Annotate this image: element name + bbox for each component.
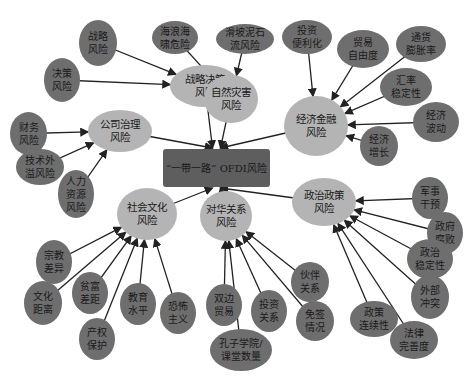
leaf-node: 政治 稳定性 <box>407 239 453 279</box>
category-node-china: 对华关系 风险 <box>200 191 252 241</box>
leaf-node: 滑坡泥石 流风险 <box>216 24 274 54</box>
leaf-node: 人力 资源 风险 <box>58 170 94 218</box>
category-node-social: 社会文化 风险 <box>117 188 177 240</box>
leaf-node: 通货 膨胀率 <box>396 26 446 62</box>
leaf-node: 海浪海 啸危险 <box>152 21 198 54</box>
leaf-node: 投资 关系 <box>251 290 287 332</box>
leaf-node: 贸易 自由度 <box>337 30 389 68</box>
leaf-node: 经济 增长 <box>360 126 398 166</box>
leaf-node: 教育 水平 <box>120 283 156 325</box>
leaf-node: 恐怖 主义 <box>160 292 196 334</box>
leaf-node: 免签 情况 <box>296 301 334 341</box>
category-node-politic: 政治政策 风险 <box>292 178 356 226</box>
leaf-node: 产权 保护 <box>79 318 115 360</box>
leaf-node: 孔子学院/ 课堂数量 <box>210 329 272 371</box>
category-node-econ: 经济金融 风险 <box>284 96 348 156</box>
leaf-node: 战略 风险 <box>79 20 117 66</box>
category-node-nature: 自然灾害 风险 <box>204 75 258 123</box>
leaf-node: 技术外 溢风险 <box>16 149 64 185</box>
leaf-node: 宗教 差异 <box>36 240 72 284</box>
center-node-ofdi-risk: “一带一路” OFDI风险 <box>163 149 270 187</box>
leaf-node: 外部 冲突 <box>411 275 449 319</box>
ofdi-risk-diagram: “一带一路” OFDI风险 战略决策 风险自然灾害 风险经济金融 风险公司治理 … <box>0 0 476 378</box>
leaf-node: 双边 贸易 <box>206 284 242 326</box>
leaf-node: 决策 风险 <box>44 58 80 102</box>
leaf-node: 政策 连续性 <box>350 301 398 337</box>
leaf-node: 文化 距离 <box>24 281 62 325</box>
leaf-node: 伙伴 关系 <box>291 262 329 302</box>
leaf-node: 投资 便利化 <box>282 20 332 54</box>
leaf-node: 汇率 稳定性 <box>380 68 432 106</box>
leaf-node: 贫富 差距 <box>72 272 108 314</box>
leaf-node: 经济 波动 <box>413 102 459 142</box>
category-node-corp: 公司治理 风险 <box>88 110 152 152</box>
leaf-node: 法律 完善度 <box>390 321 438 359</box>
